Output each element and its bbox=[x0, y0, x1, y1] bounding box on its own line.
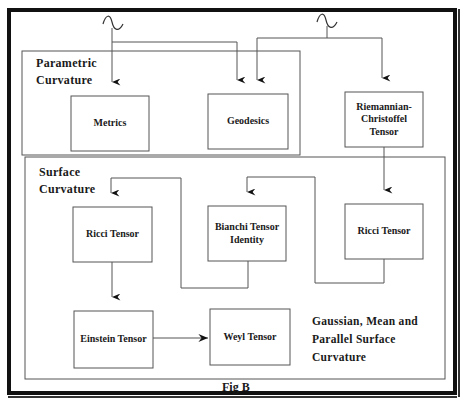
edge-source-left-geodesics bbox=[112, 42, 237, 80]
source-wave-right-icon bbox=[317, 14, 337, 27]
bianchi-identity-node: Bianchi Tensor Identity bbox=[208, 206, 286, 261]
surface-curvature-title: Surface Curvature bbox=[39, 164, 95, 198]
gaussian-mean-parallel-note: Gaussian, Mean and Parallel Surface Curv… bbox=[312, 312, 418, 366]
metrics-node: Metrics bbox=[71, 96, 149, 151]
weyl-tensor-node: Weyl Tensor bbox=[210, 309, 290, 365]
parametric-curvature-title: Parametric Curvature bbox=[36, 55, 97, 89]
edge-source-right-riemannian bbox=[327, 38, 382, 78]
source-wave-left-icon bbox=[103, 16, 123, 29]
ricci-tensor-left-node: Ricci Tensor bbox=[73, 207, 152, 262]
einstein-tensor-node: Einstein Tensor bbox=[74, 311, 153, 368]
ricci-tensor-right-node: Ricci Tensor bbox=[345, 204, 423, 259]
figure-caption: Fig B bbox=[222, 380, 250, 395]
geodesics-node: Geodesics bbox=[208, 94, 288, 149]
edge-source-right-geodesics bbox=[257, 38, 327, 80]
riemannian-christoffel-node: Riemannian- Christoffel Tensor bbox=[345, 92, 423, 147]
